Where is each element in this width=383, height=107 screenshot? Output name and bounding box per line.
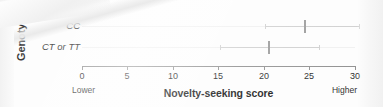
error-bar-cap-left-cc <box>265 24 266 29</box>
novelty-seeking-score-chart: Genotype CC CT or TT 0 5 10 15 20 25 30 … <box>0 0 383 107</box>
x-axis-tick-25 <box>309 66 310 70</box>
error-bar-cap-right-cc <box>359 24 360 29</box>
x-axis-title: Novelty-seeking score <box>82 87 355 99</box>
x-axis-ticklabel-25: 25 <box>304 71 314 81</box>
x-axis-ticklabel-15: 15 <box>213 71 223 81</box>
error-bar-cap-left-ct-or-tt <box>220 45 221 50</box>
x-axis-ticklabel-5: 5 <box>124 71 129 81</box>
category-label-ct-or-tt: CT or TT <box>42 41 80 52</box>
page-edge-right <box>357 0 383 107</box>
x-axis-tick-10 <box>173 66 174 70</box>
x-axis-ticklabel-10: 10 <box>168 71 178 81</box>
plot-area <box>82 8 355 64</box>
x-axis-ticklabel-20: 20 <box>259 71 269 81</box>
x-axis-tick-15 <box>218 66 219 70</box>
category-label-cc: CC <box>66 20 80 31</box>
x-axis-tick-5 <box>127 66 128 70</box>
x-axis-ticklabel-0: 0 <box>79 71 84 81</box>
x-axis-tick-20 <box>264 66 265 70</box>
x-axis-tick-30 <box>355 66 356 70</box>
x-axis-ticklabel-30: 30 <box>350 71 360 81</box>
x-axis-tick-0 <box>82 66 83 70</box>
data-point-ct-or-tt <box>268 41 270 54</box>
y-axis-title: Genotype <box>15 3 27 69</box>
error-bar-cc <box>265 26 359 27</box>
data-point-cc <box>304 20 306 33</box>
page-edge-left <box>0 0 14 107</box>
error-bar-cap-right-ct-or-tt <box>319 45 320 50</box>
